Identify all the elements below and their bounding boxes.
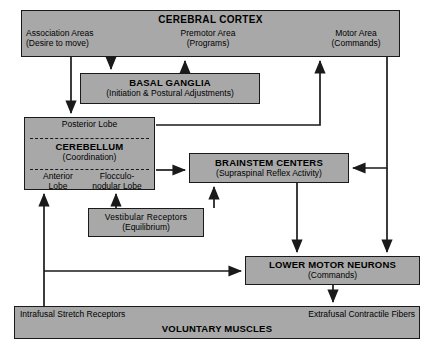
brainstem-centers-title: BRAINSTEM CENTERS <box>215 158 323 169</box>
lower-motor-neurons-subtitle: (Commands) <box>308 271 357 281</box>
cerebral-cortex-box: CEREBRAL CORTEX Association Areas (Desir… <box>21 10 400 57</box>
association-areas-line2: (Desire to move) <box>26 39 146 49</box>
extrafusal-contractile-fibers-label: Extrafusal Contractile Fibers <box>308 310 415 320</box>
brainstem-centers-box: BRAINSTEM CENTERS (Supraspinal Reflex Ac… <box>189 153 349 183</box>
intrafusal-stretch-receptors-label: Intrafusal Stretch Receptors <box>20 310 125 320</box>
diagram-canvas: CEREBRAL CORTEX Association Areas (Desir… <box>0 0 435 352</box>
posterior-lobe-label: Posterior Lobe <box>25 120 154 130</box>
premotor-area-label: Premotor Area (Programs) <box>162 29 254 49</box>
association-areas-label: Association Areas (Desire to move) <box>26 29 146 49</box>
motor-area-label: Motor Area (Commands) <box>316 29 396 49</box>
voluntary-muscles-title: VOLUNTARY MUSCLES <box>15 324 419 335</box>
vestibular-receptors-box: Vestibular Receptors (Equilibrium) <box>88 208 204 237</box>
lower-motor-neurons-box: LOWER MOTOR NEURONS (Commands) <box>245 256 420 285</box>
wire-motor-area-to-brainstem <box>353 57 387 168</box>
cerebellum-divider-upper <box>30 138 149 139</box>
anterior-lobe-label: AnteriorLobe <box>27 172 89 191</box>
basal-ganglia-box: BASAL GANGLIA (Initiation & Postural Adj… <box>80 73 260 104</box>
cerebellum-subtitle: (Coordination) <box>25 153 154 163</box>
motor-area-line2: (Commands) <box>316 39 396 49</box>
cerebellum-divider-lower <box>30 169 149 170</box>
cerebellum-box: Posterior Lobe CEREBELLUM (Coordination)… <box>24 117 155 190</box>
basal-ganglia-subtitle: (Initiation & Postural Adjustments) <box>106 89 234 99</box>
cerebellum-center-label: CEREBELLUM (Coordination) <box>25 142 154 162</box>
cerebral-cortex-title: CEREBRAL CORTEX <box>22 14 399 25</box>
brainstem-centers-subtitle: (Supraspinal Reflex Activity) <box>216 169 322 179</box>
vestibular-receptors-subtitle: (Equilibrium) <box>122 223 170 233</box>
voluntary-muscles-box: Intrafusal Stretch Receptors Extrafusal … <box>14 306 420 339</box>
premotor-area-line2: (Programs) <box>162 39 254 49</box>
flocculonodular-lobe-label: Flocculo-nodular Lobe <box>81 172 153 191</box>
